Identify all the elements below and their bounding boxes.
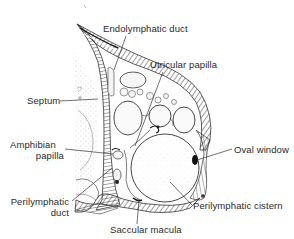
- label-amphibian-papilla-line1: Amphibian: [10, 139, 64, 150]
- label-endolymphatic-duct: Endolymphatic duct: [103, 23, 188, 34]
- label-perilymphatic-duct-line1: Perilymphatic: [9, 196, 69, 207]
- label-perilymphatic-duct: Perilymphatic duct: [9, 196, 69, 218]
- label-amphibian-papilla: Amphibian papilla: [10, 139, 64, 161]
- left-stippled-region: [73, 52, 99, 200]
- label-perilymphatic-duct-line2: duct: [9, 207, 69, 218]
- label-saccular-macula: Saccular macula: [110, 224, 182, 235]
- label-amphibian-papilla-line2: papilla: [10, 150, 64, 161]
- label-perilymphatic-cistern: Perilymphatic cistern: [193, 200, 283, 211]
- stray-mark: [84, 5, 86, 8]
- label-utricular-papilla: Utricular papilla: [150, 59, 217, 70]
- label-oval-window: Oval window: [234, 144, 289, 155]
- label-septum: Septum: [27, 95, 60, 106]
